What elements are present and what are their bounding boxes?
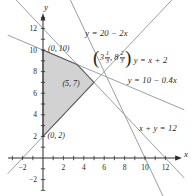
x-tick-label-6: 6	[102, 163, 106, 172]
x-axis-arrowhead	[176, 156, 183, 161]
x-tick-label-12: 12	[162, 163, 170, 172]
y-tick-label-10: 10	[30, 46, 38, 55]
y-tick-label--2: −2	[29, 175, 37, 184]
x-tick-label--2: −2	[19, 163, 27, 172]
x-tick-label-4: 4	[82, 163, 86, 172]
y-tick-label-12: 12	[30, 24, 38, 33]
x-tick-label-10: 10	[141, 163, 149, 172]
x-tick-label-8: 8	[123, 163, 127, 172]
y-tick-label-4: 4	[33, 110, 37, 119]
y-tick-label-8: 8	[33, 67, 37, 76]
feasible-region-graph: −22468101212108642−2 x y y = 20 − 2xy = …	[0, 0, 194, 196]
y-axis-arrowhead	[41, 13, 46, 21]
x-tick-label-2: 2	[62, 163, 66, 172]
feasible-region-fill	[43, 50, 94, 136]
y-tick-label-6: 6	[33, 89, 37, 98]
y-tick-label-2: 2	[33, 132, 37, 141]
plot-canvas: −22468101212108642−2	[0, 0, 194, 196]
